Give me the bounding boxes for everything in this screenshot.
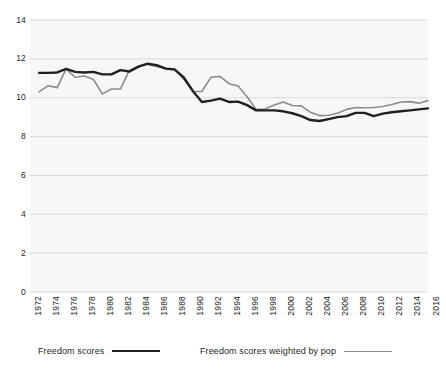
x-axis-tick-labels: 1972197419761978198019821984198619881990…	[0, 294, 446, 338]
x-tick-label-1974: 1974	[52, 296, 61, 316]
y-tick-label-2: 2	[4, 249, 26, 258]
x-tick-label-1990: 1990	[196, 296, 205, 316]
x-tick-label-2010: 2010	[377, 296, 386, 316]
x-tick-label-1976: 1976	[70, 296, 79, 316]
x-tick-label-1982: 1982	[124, 296, 133, 316]
legend-label-freedom-scores: Freedom scores	[38, 346, 104, 356]
x-tick-label-2006: 2006	[341, 296, 350, 316]
chart-container: 02468101214 1972197419761978198019821984…	[0, 0, 446, 378]
x-tick-label-1972: 1972	[34, 296, 43, 316]
legend-swatch-freedom-scores	[112, 350, 160, 352]
x-tick-label-2004: 2004	[323, 296, 332, 316]
x-tick-label-2012: 2012	[395, 296, 404, 316]
x-tick-label-1992: 1992	[214, 296, 223, 316]
y-tick-label-14: 14	[4, 16, 26, 25]
y-tick-label-12: 12	[4, 54, 26, 63]
y-axis-tick-labels: 02468101214	[0, 0, 26, 300]
x-tick-label-1994: 1994	[233, 296, 242, 316]
x-tick-label-2014: 2014	[413, 296, 422, 316]
legend-swatch-freedom-scores-weighted	[344, 351, 392, 352]
x-tick-label-1980: 1980	[106, 296, 115, 316]
x-tick-label-1984: 1984	[142, 296, 151, 316]
x-tick-label-1986: 1986	[160, 296, 169, 316]
x-tick-label-1996: 1996	[251, 296, 260, 316]
x-tick-label-1998: 1998	[269, 296, 278, 316]
legend-item-freedom-scores[interactable]: Freedom scores	[38, 343, 160, 359]
legend-item-freedom-scores-weighted[interactable]: Freedom scores weighted by pop	[200, 343, 392, 359]
y-tick-label-4: 4	[4, 210, 26, 219]
y-tick-label-8: 8	[4, 132, 26, 141]
x-tick-label-2002: 2002	[305, 296, 314, 316]
x-tick-label-1988: 1988	[178, 296, 187, 316]
plot-background	[30, 20, 428, 292]
x-tick-label-1978: 1978	[88, 296, 97, 316]
y-tick-label-6: 6	[4, 171, 26, 180]
chart-legend: Freedom scores Freedom scores weighted b…	[0, 343, 446, 367]
legend-label-freedom-scores-weighted: Freedom scores weighted by pop	[200, 346, 336, 356]
x-tick-label-2008: 2008	[359, 296, 368, 316]
x-tick-label-2000: 2000	[287, 296, 296, 316]
x-tick-label-2016: 2016	[432, 296, 441, 316]
y-tick-label-10: 10	[4, 93, 26, 102]
